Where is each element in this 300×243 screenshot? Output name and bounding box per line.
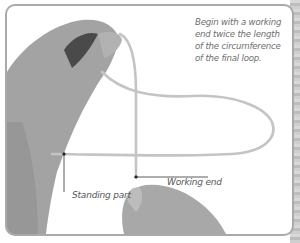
caption-line: of the circumference (195, 40, 294, 52)
illustration-frame: Begin with a working end twice the lengt… (5, 4, 294, 236)
right-hand-image (122, 185, 226, 234)
caption-line: of the final loop. (195, 52, 294, 64)
caption-line: Begin with a working (195, 16, 294, 28)
instruction-caption: Begin with a working end twice the lengt… (195, 16, 294, 64)
standing-part-label: Standing part (72, 190, 131, 200)
caption-line: end twice the length (195, 28, 294, 40)
working-end-label: Working end (167, 177, 222, 187)
left-hand-image (7, 20, 122, 234)
